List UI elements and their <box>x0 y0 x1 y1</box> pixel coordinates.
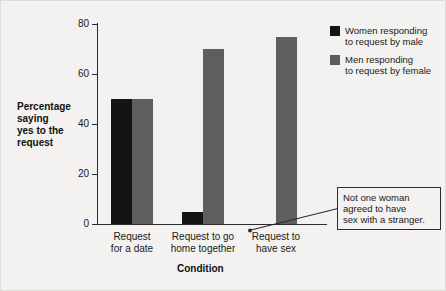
legend-swatch-women <box>330 26 340 36</box>
bar-men-2 <box>276 37 297 225</box>
legend-item-women: Women responding to request by male <box>330 25 445 47</box>
x-axis-line <box>97 224 327 225</box>
bar-women-0 <box>111 99 132 224</box>
x-axis-category-label-2-line-1: Request to <box>231 231 321 243</box>
y-axis-tick-value-0: 0 <box>83 219 89 229</box>
y-axis-tick-label-0: 0 <box>59 219 89 229</box>
y-axis-tick-value-60: 60 <box>78 69 89 79</box>
annotation-callout: Not one woman agreed to have sex with a … <box>337 187 441 230</box>
x-axis-title: Condition <box>177 263 224 274</box>
y-axis-tick-0 <box>92 224 97 225</box>
y-axis-title-line-4: request <box>17 137 93 149</box>
x-axis-category-label-2-line-2: have sex <box>231 243 321 255</box>
annotation-line-2: agreed to have <box>343 203 435 214</box>
legend-label-women-line-2: to request by male <box>345 36 427 47</box>
y-axis-tick-20 <box>92 174 97 175</box>
y-axis-tick-40 <box>92 124 97 125</box>
y-axis-tick-value-20: 20 <box>78 169 89 179</box>
chart-figure: Percentage saying yes to the request 020… <box>0 0 446 291</box>
legend-label-women-line-1: Women responding <box>345 25 427 36</box>
y-axis-tick-label-60: 60 <box>59 69 89 79</box>
legend-item-men: Men responding to request by female <box>330 54 445 76</box>
legend-swatch-men <box>330 55 340 65</box>
bar-women-1 <box>182 212 203 225</box>
y-axis-tick-value-80: 80 <box>78 19 89 29</box>
plot-area <box>98 24 326 224</box>
y-axis-tick-label-40: 40 <box>59 119 89 129</box>
y-axis-tick-value-40: 40 <box>78 119 89 129</box>
annotation-line-1: Not one woman <box>343 192 435 203</box>
legend-label-men: Men responding to request by female <box>345 54 431 76</box>
legend-label-women: Women responding to request by male <box>345 25 427 47</box>
bar-men-1 <box>203 49 224 224</box>
y-axis-tick-label-80: 80 <box>59 19 89 29</box>
y-axis-tick-label-20: 20 <box>59 169 89 179</box>
legend-label-men-line-1: Men responding <box>345 54 431 65</box>
legend: Women responding to request by male Men … <box>330 25 445 83</box>
x-axis-category-label-2: Request tohave sex <box>231 231 321 255</box>
annotation-line-3: sex with a stranger. <box>343 214 435 225</box>
y-axis-tick-80 <box>92 24 97 25</box>
legend-label-men-line-2: to request by female <box>345 65 431 76</box>
bar-men-0 <box>132 99 153 224</box>
y-axis-tick-60 <box>92 74 97 75</box>
y-axis-title-line-1: Percentage <box>17 101 93 113</box>
